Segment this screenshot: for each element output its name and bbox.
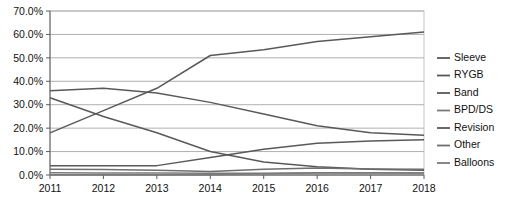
legend-label-revision[interactable]: Revision [454,121,494,133]
y-axis-label: 0.0% [19,169,43,181]
y-axis-label: 10.0% [13,145,43,157]
y-axis-label: 20.0% [13,122,43,134]
y-axis-label: 70.0% [13,5,43,17]
y-axis-tick-labels: 0.0%10.0%20.0%30.0%40.0%50.0%60.0%70.0% [13,5,43,181]
chart-svg: 0.0%10.0%20.0%30.0%40.0%50.0%60.0%70.0% … [0,0,506,208]
legend: SleeveRYGBBandBPD/DSRevisionOtherBalloon… [437,51,494,168]
y-axis-label: 60.0% [13,28,43,40]
legend-label-balloons[interactable]: Balloons [454,156,494,168]
legend-label-rygb[interactable]: RYGB [454,68,484,80]
x-axis-label: 2012 [92,182,116,194]
x-axis-label: 2015 [252,182,276,194]
x-axis-label: 2016 [305,182,329,194]
x-axis-label: 2018 [412,182,436,194]
legend-label-other[interactable]: Other [454,138,481,150]
x-axis-label: 2017 [359,182,383,194]
line-chart: 0.0%10.0%20.0%30.0%40.0%50.0%60.0%70.0% … [0,0,506,208]
legend-label-sleeve[interactable]: Sleeve [454,51,486,63]
x-axis [50,175,424,179]
data-series-group [50,32,424,175]
y-axis-label: 30.0% [13,98,43,110]
y-axis-label: 40.0% [13,75,43,87]
legend-label-band[interactable]: Band [454,86,479,98]
x-axis-label: 2011 [39,182,62,194]
plot-area-border [50,11,424,175]
plot-border [50,11,424,175]
x-axis-label: 2014 [199,182,223,194]
x-axis-label: 2013 [145,182,169,194]
series-line-revision [50,140,424,166]
y-axis [46,11,50,175]
y-axis-label: 50.0% [13,52,43,64]
x-axis-tick-labels: 20112012201320142015201620172018 [39,182,436,194]
legend-label-bpd-ds[interactable]: BPD/DS [454,103,493,115]
gridlines [50,11,424,175]
